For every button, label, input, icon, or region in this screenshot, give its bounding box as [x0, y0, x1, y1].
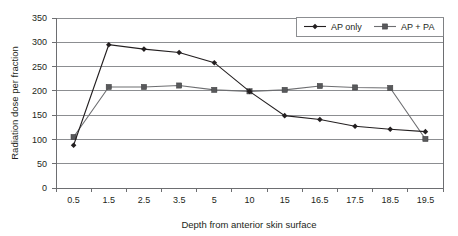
- x-axis-tick-label: 1.5: [103, 195, 116, 205]
- series-ap-only: [71, 42, 428, 148]
- y-axis-tick-label: 150: [32, 110, 47, 120]
- x-axis-tick-label: 15: [280, 195, 290, 205]
- y-axis-tick-label: 0: [42, 183, 47, 193]
- diamond-marker-icon: [71, 142, 77, 148]
- square-marker-icon: [106, 84, 111, 89]
- y-axis-title: Radiation dose per fraction: [9, 46, 20, 160]
- x-axis-tick-label: 19.5: [417, 195, 435, 205]
- diamond-marker-icon: [352, 124, 358, 130]
- square-marker-icon: [141, 84, 146, 89]
- diamond-marker-icon: [387, 126, 393, 132]
- square-marker-icon: [317, 83, 322, 88]
- line-chart: 050100150200250300350 0.51.52.53.5510151…: [0, 0, 458, 236]
- axis-lines: [56, 18, 443, 188]
- y-axis-tick-label: 300: [32, 37, 47, 47]
- legend: AP onlyAP + PA: [296, 17, 443, 36]
- x-axis-tick-label: 5: [212, 195, 217, 205]
- x-axis-tick-label: 10: [244, 195, 254, 205]
- y-axis-tickmarks: [52, 18, 56, 188]
- x-axis-tick-label: 3.5: [173, 195, 186, 205]
- diamond-marker-icon: [423, 129, 429, 135]
- x-axis-tick-label: 17.5: [346, 195, 364, 205]
- y-axis-tick-label: 100: [32, 135, 47, 145]
- x-axis-tickmarks: [56, 188, 443, 192]
- square-marker-icon: [388, 85, 393, 90]
- x-axis-tick-label: 2.5: [138, 195, 151, 205]
- series-line-ap-only: [74, 45, 426, 146]
- square-marker-icon: [352, 85, 357, 90]
- y-axis-tick-label: 50: [37, 159, 47, 169]
- x-axis-title: Depth from anterior skin surface: [181, 219, 316, 230]
- x-axis-tick-labels: 0.51.52.53.55101516.517.518.519.5: [67, 195, 434, 205]
- x-axis-tick-label: 18.5: [381, 195, 399, 205]
- x-axis-tick-label: 16.5: [311, 195, 329, 205]
- x-axis-tick-label: 0.5: [67, 195, 80, 205]
- y-axis-tick-labels: 050100150200250300350: [32, 13, 47, 193]
- diamond-marker-icon: [317, 117, 323, 123]
- legend-label-ap-only: AP only: [331, 22, 362, 32]
- diamond-marker-icon: [176, 50, 182, 56]
- legend-label-ap-plus-pa: AP + PA: [401, 22, 434, 32]
- chart-container: 050100150200250300350 0.51.52.53.5510151…: [0, 0, 458, 236]
- y-axis-tick-label: 350: [32, 13, 47, 23]
- gridlines: [56, 18, 443, 188]
- y-axis-tick-label: 250: [32, 62, 47, 72]
- square-marker-icon: [282, 87, 287, 92]
- square-marker-icon: [212, 87, 217, 92]
- square-marker-icon: [382, 24, 387, 29]
- diamond-marker-icon: [141, 46, 147, 52]
- y-axis-tick-label: 200: [32, 86, 47, 96]
- diamond-marker-icon: [106, 42, 112, 48]
- square-marker-icon: [177, 83, 182, 88]
- square-marker-icon: [423, 136, 428, 141]
